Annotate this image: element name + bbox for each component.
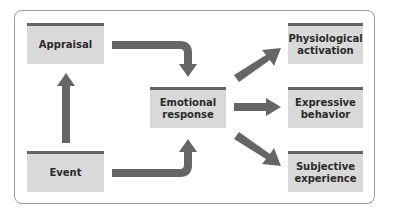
arrowhead-down-icon xyxy=(179,64,197,77)
arrows-layer xyxy=(0,0,393,213)
arrow-event-to-appraisal xyxy=(57,73,75,143)
arrow-to-expressive-behavior xyxy=(234,98,281,116)
arrow-to-physiological-activation xyxy=(234,48,281,82)
arrow-to-subjective-experience xyxy=(234,132,281,166)
arrow-appraisal-to-emotional-response xyxy=(112,45,188,66)
arrowhead-up-icon xyxy=(179,139,197,152)
arrow-event-to-emotional-response xyxy=(112,150,188,173)
